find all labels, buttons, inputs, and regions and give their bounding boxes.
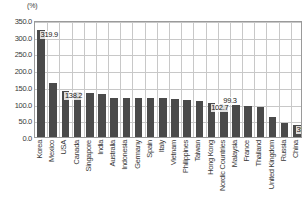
x-axis-tick: Singapore bbox=[83, 140, 95, 214]
x-axis-tick-label: Spain bbox=[146, 140, 154, 158]
y-axis: 350.0300.0250.0200.0150.0100.050.00.0 bbox=[0, 12, 34, 139]
x-axis-tick: China bbox=[290, 140, 302, 214]
x-axis-tick-label: United Kingdom bbox=[268, 140, 276, 189]
x-axis-tick: Russia bbox=[278, 140, 290, 214]
x-axis-tick-label: Malaysia bbox=[231, 140, 239, 167]
x-axis-tick-label: India bbox=[97, 140, 105, 155]
x-axis-tick: United Kingdom bbox=[265, 140, 277, 214]
bar bbox=[147, 98, 155, 137]
bar bbox=[281, 123, 289, 137]
x-axis-tick: Canada bbox=[71, 140, 83, 214]
x-axis-tick: Italy bbox=[156, 140, 168, 214]
y-axis-tick-label: 250.0 bbox=[15, 50, 32, 59]
x-axis-tick: Hong Kong bbox=[205, 140, 217, 214]
bar bbox=[232, 105, 240, 137]
value-label: 319.9 bbox=[40, 31, 58, 39]
bar-chart: (%) 350.0300.0250.0200.0150.0100.050.00.… bbox=[0, 0, 305, 217]
x-axis-tick: Taiwan bbox=[192, 140, 204, 214]
x-axis-tick: Malaysia bbox=[229, 140, 241, 214]
x-axis-tick: USA bbox=[58, 140, 70, 214]
bar bbox=[86, 93, 94, 137]
x-axis-tick-label: Vietnam bbox=[170, 140, 178, 165]
bar bbox=[196, 101, 204, 137]
x-axis-tick: France bbox=[241, 140, 253, 214]
bar bbox=[110, 98, 118, 137]
x-axis-tick-label: Canada bbox=[73, 140, 81, 164]
y-axis-unit-label: (%) bbox=[27, 2, 37, 9]
x-axis-tick-label: Thailand bbox=[255, 140, 263, 166]
x-axis-tick-label: China bbox=[292, 140, 300, 158]
x-axis-tick: Thailand bbox=[253, 140, 265, 214]
y-axis-tick-label: 300.0 bbox=[15, 33, 32, 42]
bar bbox=[269, 117, 277, 137]
bar bbox=[135, 98, 143, 137]
bar bbox=[37, 30, 45, 137]
x-axis-tick-label: Australia bbox=[109, 140, 117, 166]
x-axis-tick-label: Nordic Countries bbox=[219, 140, 227, 191]
y-axis-tick-label: 350.0 bbox=[15, 17, 32, 26]
x-axis-tick: India bbox=[95, 140, 107, 214]
x-axis-tick-label: USA bbox=[60, 140, 68, 155]
bar bbox=[98, 94, 106, 137]
x-axis-tick-label: Singapore bbox=[85, 140, 93, 172]
bar-series bbox=[35, 22, 301, 137]
y-axis-tick-label: 150.0 bbox=[15, 83, 32, 92]
x-axis-tick: Vietnam bbox=[168, 140, 180, 214]
bar bbox=[171, 99, 179, 137]
y-axis-tick-label: 100.0 bbox=[15, 100, 32, 109]
x-axis-tick-label: Italy bbox=[158, 140, 166, 152]
x-axis-tick: Mexico bbox=[46, 140, 58, 214]
bar bbox=[159, 98, 167, 137]
x-axis-tick-label: Korea bbox=[36, 140, 44, 159]
x-axis-tick: Germany bbox=[131, 140, 143, 214]
x-axis-tick-label: France bbox=[243, 140, 251, 162]
x-axis-tick-label: Hong Kong bbox=[207, 140, 215, 175]
x-axis-tick-label: Philippines bbox=[182, 140, 190, 173]
y-axis-tick-label: 0.0 bbox=[22, 134, 32, 143]
x-axis: KoreaMexicoUSACanadaSingaporeIndiaAustra… bbox=[34, 140, 302, 214]
x-axis-tick-label: Mexico bbox=[48, 140, 56, 162]
x-axis-tick: Australia bbox=[107, 140, 119, 214]
value-label: 138.2 bbox=[64, 92, 82, 100]
x-axis-tick-label: Taiwan bbox=[194, 140, 202, 162]
bar bbox=[244, 106, 252, 137]
bar bbox=[123, 98, 131, 137]
x-axis-tick-label: Indonesia bbox=[121, 140, 129, 170]
plot-area: 319.9138.2102.799.335.4 bbox=[34, 21, 302, 138]
x-axis-tick: Philippines bbox=[180, 140, 192, 214]
y-axis-tick-label: 50.0 bbox=[19, 117, 32, 126]
x-axis-tick: Spain bbox=[144, 140, 156, 214]
bar bbox=[183, 100, 191, 137]
x-axis-tick: Korea bbox=[34, 140, 46, 214]
value-label: 99.3 bbox=[223, 97, 237, 105]
bar bbox=[49, 83, 57, 137]
x-axis-tick: Nordic Countries bbox=[217, 140, 229, 214]
y-axis-tick-label: 200.0 bbox=[15, 67, 32, 76]
x-axis-tick-label: Russia bbox=[280, 140, 288, 161]
value-label: 35.4 bbox=[296, 126, 302, 134]
x-axis-tick: Indonesia bbox=[119, 140, 131, 214]
x-axis-tick-label: Germany bbox=[134, 140, 142, 169]
value-label: 102.7 bbox=[211, 104, 229, 112]
bar bbox=[257, 107, 265, 137]
